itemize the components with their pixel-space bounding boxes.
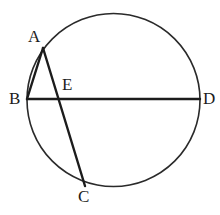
vertex-label-c: C [78, 188, 89, 205]
geometry-figure: A B E D C [0, 0, 220, 215]
chord-ab [27, 48, 43, 99]
vertex-label-d: D [203, 90, 215, 107]
chord-ac [43, 48, 85, 186]
vertex-label-e: E [62, 76, 72, 93]
vertex-label-a: A [28, 28, 40, 45]
vertex-label-b: B [9, 90, 20, 107]
